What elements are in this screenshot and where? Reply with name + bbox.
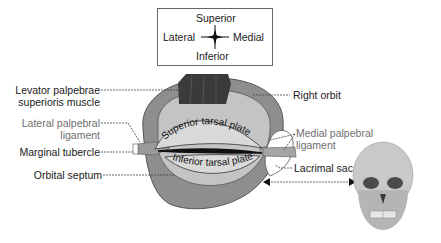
skull-illustration <box>353 142 413 230</box>
label-marginal-tubercle: Marginal tubercle <box>10 146 100 158</box>
label-right-orbit: Right orbit <box>293 89 341 101</box>
label-lacrimal-sac: Lacrimal sac <box>294 162 353 174</box>
levator-muscle-shape <box>178 74 231 104</box>
label-orbital-septum: Orbital septum <box>10 169 102 181</box>
label-medial-palpebral-ligament: Medial palpebral ligament <box>296 127 373 151</box>
label-lateral-palpebral-ligament: Lateral palpebral ligament <box>15 117 100 141</box>
label-levator-palpebrae: Levator palpebrae superioris muscle <box>15 84 100 108</box>
